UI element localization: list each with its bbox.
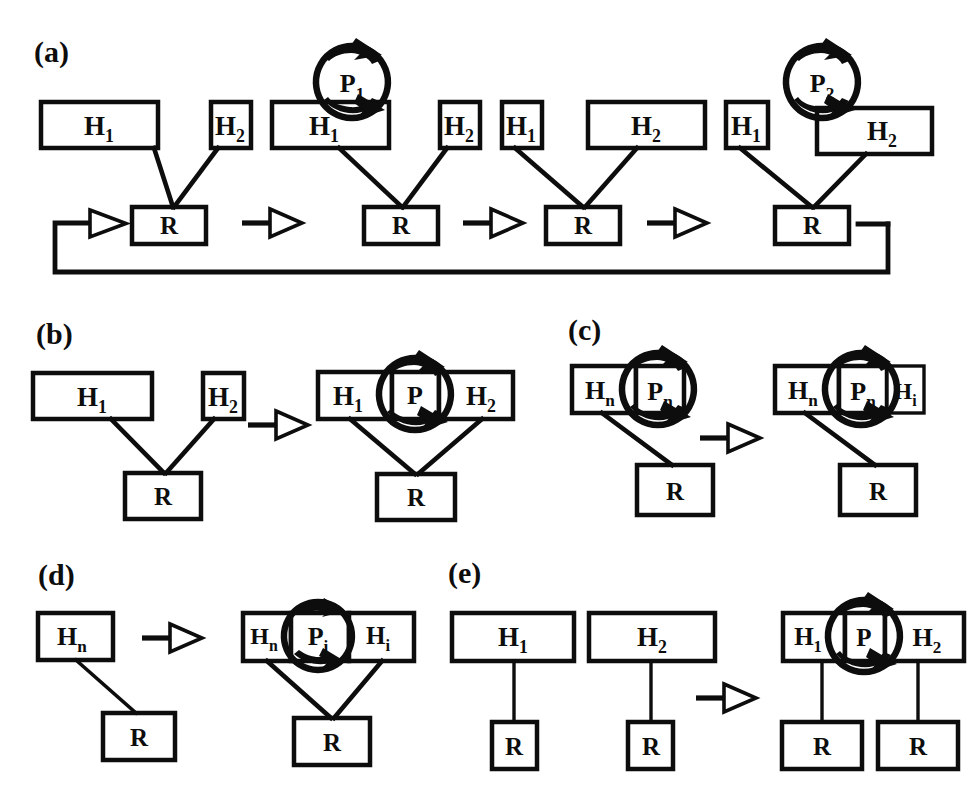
link-h2-r <box>403 148 447 207</box>
panel-b-left: H1 H2 R <box>33 373 244 519</box>
panel-d-left: Hn R <box>38 613 175 760</box>
link-hi-r <box>334 661 382 718</box>
promoter-p2-label: P2 <box>810 69 834 103</box>
panel-d-right: Hn Hi R Pi <box>243 598 414 765</box>
panel-a-transition-2 <box>463 209 523 237</box>
panel-e: (e) H1 R H2 R H1 H2 R R <box>448 556 964 769</box>
box-r-label: R <box>666 478 685 505</box>
promoter-p-label: P <box>856 624 871 651</box>
promoter-p-label: P <box>407 381 423 410</box>
box-r1-label: R <box>813 733 832 760</box>
link-h1-r <box>111 419 164 473</box>
panel-c: (c) Hn R Pn Hn Hi R <box>568 313 924 515</box>
panel-c-right: Hn Hi R Pn <box>775 345 924 515</box>
panel-a-transition-3 <box>647 209 707 237</box>
box-r-label: R <box>323 729 342 756</box>
link-h2-r <box>166 419 214 473</box>
panel-c-left: Hn R Pn <box>572 345 713 515</box>
box-r1-label: R <box>505 733 524 760</box>
panel-d: (d) Hn R Hn Hi R Pi <box>38 558 414 765</box>
link-h1-r <box>740 148 812 207</box>
box-r-label: R <box>803 212 822 239</box>
panel-b: (b) H1 H2 R H1 H2 R <box>33 317 513 520</box>
feedback-arrowhead <box>90 210 126 237</box>
box-r2-label: R <box>642 733 661 760</box>
panel-e-transition <box>696 684 756 712</box>
panel-a: (a) H1 H2 R H1 H2 <box>34 35 932 272</box>
panel-b-right: H1 H2 R P <box>318 350 513 520</box>
panel-b-label: (b) <box>36 317 73 351</box>
link-h2-r <box>585 148 637 207</box>
box-r-label: R <box>130 724 149 751</box>
link-h1-r <box>515 148 583 207</box>
panel-b-transition <box>248 411 308 439</box>
panel-a-stage-2: H1 H2 R P1 <box>272 38 480 244</box>
link-hn-r <box>76 660 136 713</box>
panel-d-transition <box>142 624 202 652</box>
figure-canvas: (a) H1 H2 R H1 H2 <box>0 0 971 787</box>
panel-a-transition-1 <box>242 209 302 237</box>
link-h2-r <box>174 148 218 207</box>
panel-a-label: (a) <box>34 35 69 69</box>
box-r-label: R <box>154 483 173 510</box>
panel-e-left: H1 R H2 R <box>452 613 715 769</box>
box-r-label: R <box>392 212 411 239</box>
link-h2-r <box>814 154 866 207</box>
panel-e-label: (e) <box>448 556 481 590</box>
box-r-label: R <box>869 478 888 505</box>
box-r2-label: R <box>909 733 928 760</box>
panel-a-stage-4: H1 H2 R P2 <box>726 38 932 244</box>
box-r-label: R <box>574 212 593 239</box>
panel-c-transition <box>700 424 760 452</box>
panel-c-label: (c) <box>568 313 601 347</box>
promoter-p1-label: P1 <box>340 69 364 103</box>
panel-e-right: H1 H2 R R P <box>782 592 964 769</box>
diagram-svg: (a) H1 H2 R H1 H2 <box>0 0 971 787</box>
link-h1-r <box>154 148 173 207</box>
panel-d-label: (d) <box>38 558 75 592</box>
box-r-label: R <box>160 212 179 239</box>
link-h1-r <box>339 148 402 207</box>
box-r-label: R <box>407 484 426 511</box>
